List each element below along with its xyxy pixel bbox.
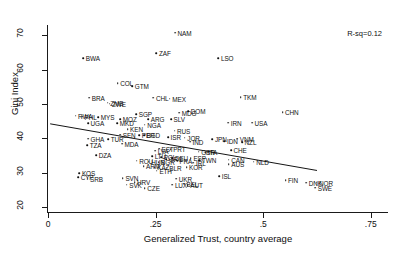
point-marker bbox=[188, 110, 190, 112]
point-label: ETH bbox=[159, 167, 171, 174]
point-label: LSO bbox=[221, 54, 234, 61]
x-tick-label-.75: .75 bbox=[365, 219, 377, 229]
y-tick-30 bbox=[42, 173, 47, 174]
point-marker bbox=[186, 166, 188, 168]
y-tick-40 bbox=[42, 138, 47, 139]
point-marker bbox=[205, 151, 207, 153]
point-label: MEX bbox=[172, 95, 186, 102]
scatter-plot-figure: NAMZAFBWALSOCOLGTMBRACHLMEXZMBZWETKMCHNM… bbox=[0, 0, 407, 267]
point-label: TKM bbox=[243, 94, 256, 101]
y-tick-70 bbox=[42, 35, 47, 36]
point-label: NGA bbox=[147, 121, 161, 128]
point-marker bbox=[170, 118, 172, 120]
point-label: SVK bbox=[129, 181, 142, 188]
point-marker bbox=[75, 115, 77, 117]
point-marker bbox=[241, 141, 243, 143]
point-marker bbox=[170, 148, 172, 150]
point-marker bbox=[198, 151, 200, 153]
point-label: AUT bbox=[190, 182, 202, 189]
point-label: ZAF bbox=[159, 50, 171, 57]
point-marker bbox=[86, 145, 88, 147]
point-marker bbox=[187, 184, 189, 186]
point-marker bbox=[138, 134, 140, 136]
point-label: AUS bbox=[231, 160, 244, 167]
point-label: ITA bbox=[208, 148, 217, 155]
point-label: CZE bbox=[147, 184, 159, 191]
point-marker bbox=[154, 150, 156, 152]
point-marker bbox=[98, 116, 100, 118]
plot-area: NAMZAFBWALSOCOLGTMBRACHLMEXZMBZWETKMCHNM… bbox=[48, 25, 388, 212]
point-label: PRT bbox=[173, 146, 185, 153]
point-marker bbox=[167, 136, 169, 138]
point-marker bbox=[218, 176, 220, 178]
y-tick-20 bbox=[42, 207, 47, 208]
point-marker bbox=[282, 112, 284, 114]
point-label: LUX bbox=[175, 181, 187, 188]
point-marker bbox=[132, 86, 134, 88]
point-marker bbox=[117, 83, 119, 85]
point-label: BRA bbox=[92, 94, 105, 101]
point-marker bbox=[184, 137, 186, 139]
point-marker bbox=[218, 57, 220, 59]
point-marker bbox=[314, 187, 316, 189]
point-marker bbox=[237, 138, 239, 140]
point-label: SEN bbox=[123, 131, 136, 138]
point-marker bbox=[285, 179, 287, 181]
point-marker bbox=[174, 32, 176, 34]
point-label: TUR bbox=[111, 135, 124, 142]
regression-line bbox=[48, 25, 388, 212]
point-marker bbox=[144, 187, 146, 189]
point-marker bbox=[156, 170, 158, 172]
point-marker bbox=[228, 163, 230, 165]
point-label: FIN bbox=[288, 177, 298, 184]
point-label: KOR bbox=[189, 164, 203, 171]
x-axis-line bbox=[47, 212, 388, 213]
x-tick-label-.25: .25 bbox=[150, 219, 162, 229]
point-label: ISR bbox=[171, 134, 181, 141]
point-marker bbox=[228, 122, 230, 124]
point-marker bbox=[154, 167, 156, 169]
y-tick-50 bbox=[42, 104, 47, 105]
point-marker bbox=[136, 160, 138, 162]
point-marker bbox=[89, 97, 91, 99]
y-tick-label-20: 20 bbox=[0, 200, 40, 210]
point-label: DOM bbox=[191, 108, 206, 115]
point-marker bbox=[87, 138, 89, 140]
point-label: BWA bbox=[86, 54, 100, 61]
point-label: GTM bbox=[135, 83, 149, 90]
point-marker bbox=[81, 116, 83, 118]
point-marker bbox=[240, 96, 242, 98]
point-marker bbox=[178, 112, 180, 114]
point-marker bbox=[121, 143, 123, 145]
y-axis-title: Gini Index bbox=[9, 54, 20, 134]
y-tick-60 bbox=[42, 70, 47, 71]
point-label: JPN bbox=[215, 135, 227, 142]
point-label: MDA bbox=[125, 140, 139, 147]
point-label: NAM bbox=[177, 29, 191, 36]
point-marker bbox=[251, 122, 253, 124]
point-marker bbox=[87, 178, 89, 180]
point-marker bbox=[144, 124, 146, 126]
point-label: BGD bbox=[146, 132, 160, 139]
x-tick-.5 bbox=[263, 213, 264, 218]
point-marker bbox=[230, 149, 232, 151]
point-label: IRN bbox=[231, 119, 242, 126]
y-tick-label-70: 70 bbox=[0, 28, 40, 38]
point-label: ZWE bbox=[112, 100, 126, 107]
point-label: CHN bbox=[285, 109, 299, 116]
point-marker bbox=[253, 161, 255, 163]
y-tick-label-30: 30 bbox=[0, 166, 40, 176]
point-label: NZL bbox=[245, 139, 257, 146]
point-marker bbox=[122, 177, 124, 179]
x-tick-.75 bbox=[371, 213, 372, 218]
y-tick-label-60: 60 bbox=[0, 63, 40, 73]
point-label: CHE bbox=[233, 147, 246, 154]
r-squared-annotation: R-sq=0.12 bbox=[347, 29, 382, 38]
point-marker bbox=[176, 160, 178, 162]
point-marker bbox=[147, 118, 149, 120]
point-marker bbox=[107, 138, 109, 140]
x-tick-.25 bbox=[156, 213, 157, 218]
point-label: CHL bbox=[156, 94, 169, 101]
point-marker bbox=[153, 97, 155, 99]
point-marker bbox=[228, 159, 230, 161]
